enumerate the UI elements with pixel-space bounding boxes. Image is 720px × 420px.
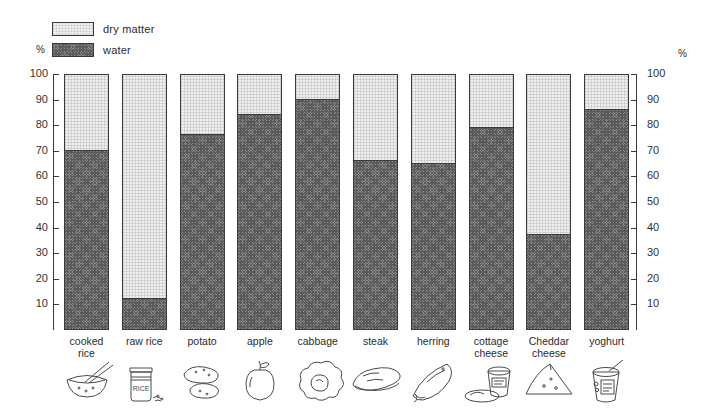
y-tick-l-20 [53, 279, 59, 280]
y-label-r-90: 90 [647, 93, 659, 105]
y-tick-l-30 [53, 253, 59, 254]
legend-item-dry-matter: dry matter [52, 20, 155, 37]
bar-yoghurt[interactable] [584, 74, 629, 330]
bar-apple[interactable] [237, 74, 282, 330]
legend-swatch-dry-matter [52, 22, 94, 36]
y-label-r-30: 30 [647, 246, 659, 258]
bar-water-segment [238, 114, 281, 329]
bar-herring[interactable] [411, 74, 456, 330]
y-tick-l-60 [53, 176, 59, 177]
bar-cottage-cheese[interactable] [469, 74, 514, 330]
y-tick-r-20 [631, 279, 637, 280]
bar-cabbage[interactable] [295, 74, 340, 330]
bar-water-segment [181, 134, 224, 329]
y-tick-r-70 [631, 151, 637, 152]
bar-cooked-rice[interactable] [64, 74, 109, 330]
y-label-r-40: 40 [647, 221, 659, 233]
y-tick-r-10 [631, 304, 637, 305]
y-label-r-20: 20 [647, 272, 659, 284]
y-label-l-10: 10 [36, 297, 48, 309]
bar-water-segment [65, 150, 108, 329]
legend-label-dry-matter: dry matter [103, 23, 155, 35]
bar-water-segment [585, 109, 628, 329]
chart-legend: dry matter water [52, 20, 155, 62]
y-tick-l-100 [53, 74, 59, 75]
y-label-r-100: 100 [647, 67, 665, 79]
water-content-chart: dry matter water % % 1010202030304040505… [0, 0, 720, 420]
y-tick-l-40 [53, 228, 59, 229]
y-label-l-80: 80 [36, 118, 48, 130]
y-label-l-70: 70 [36, 144, 48, 156]
legend-label-water: water [103, 44, 131, 56]
y-label-l-50: 50 [36, 195, 48, 207]
y-tick-r-40 [631, 228, 637, 229]
y-label-r-70: 70 [647, 144, 659, 156]
percent-symbol-left: % [36, 44, 45, 55]
y-tick-r-60 [631, 176, 637, 177]
y-label-r-10: 10 [647, 297, 659, 309]
y-tick-l-90 [53, 100, 59, 101]
y-tick-l-80 [53, 125, 59, 126]
bar-water-segment [296, 99, 339, 329]
y-tick-r-30 [631, 253, 637, 254]
x-label-yoghurt: yoghurt [571, 336, 643, 348]
yoghurt-pot-icon [571, 358, 643, 410]
y-label-r-60: 60 [647, 169, 659, 181]
y-label-l-60: 60 [36, 169, 48, 181]
svg-text:RICE: RICE [133, 385, 150, 392]
y-label-r-80: 80 [647, 118, 659, 130]
bar-water-segment [527, 234, 570, 329]
y-tick-r-50 [631, 202, 637, 203]
bar-raw-rice[interactable] [122, 74, 167, 330]
y-tick-r-80 [631, 125, 637, 126]
bar-water-segment [412, 163, 455, 329]
y-label-l-90: 90 [36, 93, 48, 105]
bar-Cheddar-cheese[interactable] [526, 74, 571, 330]
y-tick-r-100 [631, 74, 637, 75]
bar-steak[interactable] [353, 74, 398, 330]
y-tick-l-70 [53, 151, 59, 152]
y-label-l-40: 40 [36, 221, 48, 233]
y-label-l-30: 30 [36, 246, 48, 258]
bar-water-segment [354, 160, 397, 329]
legend-swatch-water [52, 43, 94, 57]
y-label-l-20: 20 [36, 272, 48, 284]
plot-area: 1010202030304040505060607070808090901001… [64, 74, 626, 330]
y-tick-r-90 [631, 100, 637, 101]
y-label-r-50: 50 [647, 195, 659, 207]
legend-item-water: water [52, 41, 155, 58]
percent-symbol-right: % [678, 48, 687, 59]
y-tick-l-50 [53, 202, 59, 203]
bar-potato[interactable] [180, 74, 225, 330]
bar-water-segment [123, 298, 166, 329]
y-tick-l-10 [53, 304, 59, 305]
y-label-l-100: 100 [30, 67, 48, 79]
bar-water-segment [470, 127, 513, 329]
